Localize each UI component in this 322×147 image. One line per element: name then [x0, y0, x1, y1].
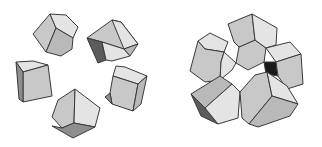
right-block: [105, 66, 147, 111]
ring-left: [190, 33, 236, 82]
assembled-ring-panel: [190, 14, 303, 127]
ring-top-face-0: [228, 14, 255, 47]
bottom-block-face-1: [74, 89, 100, 127]
ring-bottom-left: [191, 76, 240, 124]
upper-right-block: [87, 20, 138, 63]
top-block: [33, 14, 78, 56]
diagram-canvas: [0, 0, 322, 147]
left-block: [16, 61, 52, 102]
left-block-face-1: [23, 65, 52, 102]
bottom-block: [52, 89, 100, 138]
polyhedra-diagram: [0, 0, 322, 147]
ring-left-face-2: [220, 52, 236, 80]
bottom-block-face-0: [52, 89, 75, 128]
scattered-blocks-panel: [16, 14, 147, 138]
